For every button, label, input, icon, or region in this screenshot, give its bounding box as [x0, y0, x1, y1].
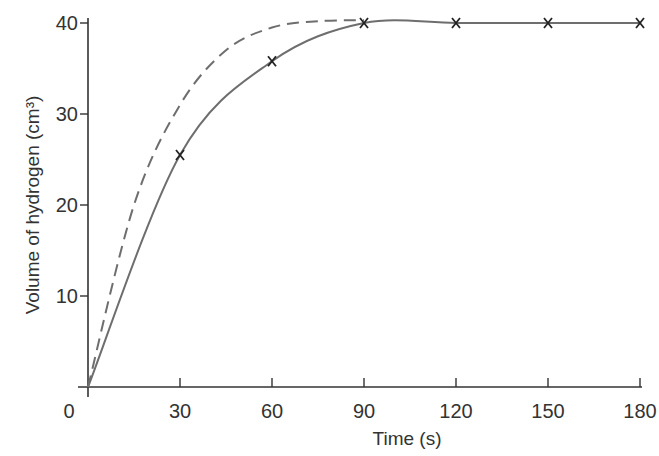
x-tick-label: 60	[261, 400, 283, 422]
y-axis-title: Volume of hydrogen (cm³)	[22, 96, 43, 315]
y-tick-label: 10	[56, 285, 78, 307]
y-tick-label: 20	[56, 194, 78, 216]
x-tick-label: 180	[623, 400, 656, 422]
axes	[78, 18, 642, 397]
y-tick-label: 30	[56, 103, 78, 125]
x-marker-icon	[268, 56, 276, 66]
x-marker-icon	[176, 150, 184, 160]
hydrogen-volume-chart: 306090120150180010203040 Time (s) Volume…	[0, 0, 659, 456]
dashed-curve	[88, 20, 364, 387]
x-axis-title: Time (s)	[373, 428, 442, 449]
x-tick-label: 120	[439, 400, 472, 422]
tick-labels: 306090120150180010203040	[56, 12, 657, 422]
y-tick-label: 40	[56, 12, 78, 34]
plot-area	[88, 18, 644, 387]
x-tick-label: 30	[169, 400, 191, 422]
origin-label: 0	[63, 400, 74, 422]
x-tick-label: 90	[353, 400, 375, 422]
x-tick-label: 150	[531, 400, 564, 422]
solid-curve	[88, 20, 640, 387]
